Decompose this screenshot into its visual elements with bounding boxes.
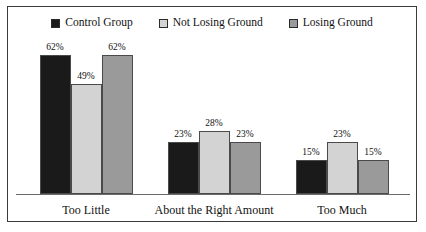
bar-slot: 15%: [296, 37, 327, 194]
bar-value-label: 62%: [108, 43, 125, 53]
bar-slot: 28%: [199, 37, 230, 194]
bar-slot: 15%: [358, 37, 389, 194]
bar-group: 23%28%23%: [150, 37, 278, 194]
legend-swatch-not-losing-ground: [159, 19, 168, 28]
bar[interactable]: [199, 131, 230, 194]
bar-slot: 23%: [168, 37, 199, 194]
legend-swatch-control-group: [51, 19, 60, 28]
legend-label-control-group: Control Group: [65, 17, 132, 29]
bar-slot: 23%: [327, 37, 358, 194]
bar[interactable]: [327, 142, 358, 194]
bar[interactable]: [230, 142, 261, 194]
bar[interactable]: [296, 160, 327, 194]
category-label: Too Little: [22, 201, 150, 219]
legend-item-not-losing-ground: Not Losing Ground: [159, 17, 263, 29]
category-label: About the Right Amount: [150, 201, 278, 219]
bar-groups: 62%49%62%23%28%23%15%23%15%: [22, 37, 406, 194]
chart-frame: Control Group Not Losing Ground Losing G…: [7, 6, 417, 222]
bar-group: 62%49%62%: [22, 37, 150, 194]
bar-slot: 62%: [102, 37, 133, 194]
bar-group: 15%23%15%: [278, 37, 406, 194]
bar[interactable]: [40, 55, 71, 194]
bar-slot: 49%: [71, 37, 102, 194]
chart-legend: Control Group Not Losing Ground Losing G…: [8, 15, 416, 31]
bar-slot: 62%: [40, 37, 71, 194]
bar-slot: 23%: [230, 37, 261, 194]
legend-item-control-group: Control Group: [51, 17, 132, 29]
plot-area: 62%49%62%23%28%23%15%23%15%: [22, 37, 406, 194]
bar-value-label: 23%: [236, 130, 253, 140]
bar-value-label: 15%: [302, 148, 319, 158]
bar-value-label: 62%: [46, 43, 63, 53]
legend-item-losing-ground: Losing Ground: [289, 17, 373, 29]
bar-value-label: 49%: [77, 72, 94, 82]
bar[interactable]: [358, 160, 389, 194]
category-axis-labels: Too LittleAbout the Right AmountToo Much: [22, 201, 406, 219]
bar-value-label: 23%: [333, 130, 350, 140]
legend-label-not-losing-ground: Not Losing Ground: [173, 17, 263, 29]
bar[interactable]: [168, 142, 199, 194]
bar[interactable]: [102, 55, 133, 194]
bar-value-label: 15%: [364, 148, 381, 158]
bar[interactable]: [71, 84, 102, 194]
legend-label-losing-ground: Losing Ground: [303, 17, 373, 29]
bar-value-label: 28%: [205, 119, 222, 129]
bar-value-label: 23%: [174, 130, 191, 140]
legend-swatch-losing-ground: [289, 19, 298, 28]
x-axis-line: [16, 194, 410, 195]
category-label: Too Much: [278, 201, 406, 219]
